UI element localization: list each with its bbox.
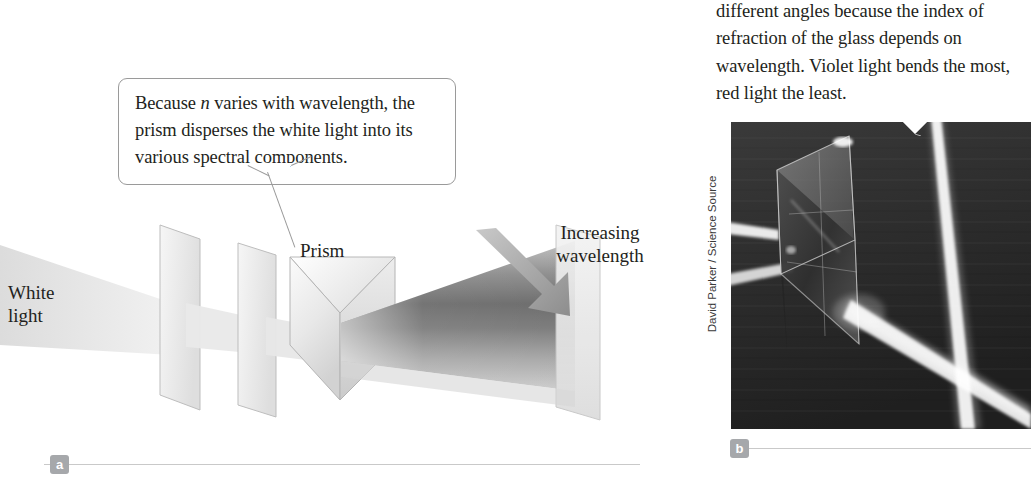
callout-text-before: Because (135, 93, 200, 113)
figure-panel-b: different angles because the index of re… (660, 0, 1031, 494)
label-white-light: White light (8, 282, 54, 328)
callout-text-a: Because n varies with wavelength, the pr… (135, 90, 439, 172)
panel-badge-b: b (730, 439, 749, 458)
figure-panel-a: White light Prism Increasing wavelength … (0, 0, 660, 494)
panel-badge-a: a (50, 455, 69, 474)
prism-photo-graphic (731, 122, 1031, 429)
label-increasing-wavelength: Increasing wavelength (545, 222, 655, 268)
caption-b: different angles because the index of re… (716, 0, 1031, 108)
photo-credit: David Parker / Science Source (706, 154, 718, 354)
variable-n: n (200, 93, 209, 113)
panel-rule-b (733, 448, 1031, 449)
callout-bubble-a: Because n varies with wavelength, the pr… (118, 78, 456, 185)
prism-photograph (731, 122, 1031, 429)
caption-b-text: different angles because the index of re… (716, 0, 1031, 108)
label-prism: Prism (300, 240, 344, 263)
panel-rule-a (44, 464, 640, 465)
